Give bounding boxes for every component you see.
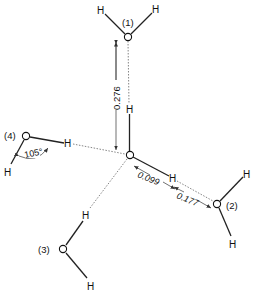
label-4: (4) (4, 130, 16, 141)
bond-o3-h-up (66, 221, 83, 245)
molecule-3: H H (3) (38, 210, 94, 292)
dim-0099: 0.099 (136, 170, 161, 188)
dim-0276: 0.276 (111, 86, 122, 110)
oxygen-3-icon (59, 245, 66, 252)
h-4a: H (64, 138, 71, 149)
h-4b: H (4, 167, 11, 178)
h-central-right: H (169, 173, 176, 184)
hbond-3 (90, 159, 127, 208)
arrow-177-right (197, 200, 211, 208)
h-central-up: H (126, 104, 133, 115)
bond-o4-h-down (11, 140, 24, 164)
oxygen-central-icon (126, 151, 133, 158)
h-3a: H (82, 210, 89, 221)
label-2: (2) (226, 200, 238, 211)
hbond-4 (73, 144, 125, 154)
bond-o2-h-down (219, 208, 231, 236)
oxygen-4-icon (22, 132, 29, 139)
molecule-1: H H (1) (97, 4, 159, 41)
h-3b: H (87, 281, 94, 292)
label-3: (3) (38, 244, 50, 255)
h-2a: H (243, 169, 250, 180)
bond-o2-h-up (220, 177, 243, 201)
h-2b: H (229, 239, 236, 250)
hbond-1 (128, 41, 129, 104)
dim-0177: 0.177 (175, 191, 201, 209)
h-1b: H (152, 4, 159, 15)
bond-o4-h-right (30, 137, 64, 143)
bond-o3-h-down (66, 253, 87, 278)
angle-105: 105° (23, 146, 44, 160)
molecule-4: H H (4) 105° (4, 130, 71, 178)
central-molecule: H H (126, 104, 176, 184)
dimension-oo: 0.276 (111, 42, 122, 150)
water-hydrogen-bond-diagram: H H (1) H H 0.276 H H (4) 105° 0.0 (0, 0, 258, 298)
oxygen-1-icon (124, 33, 131, 40)
oxygen-2-icon (213, 200, 220, 207)
bond-o1-h-right (131, 13, 152, 34)
label-1: (1) (122, 17, 134, 28)
molecule-2: H H (2) (213, 169, 250, 250)
h-1a: H (97, 5, 104, 16)
